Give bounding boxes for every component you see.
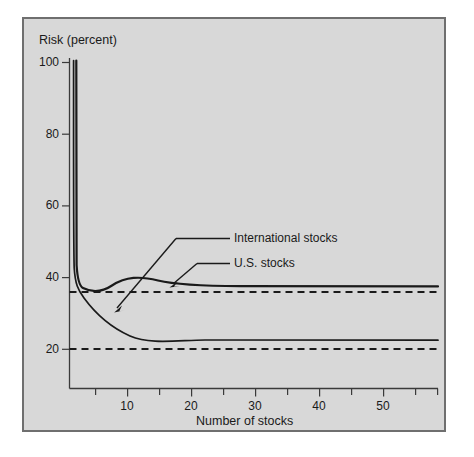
annotation-label-us-stocks: U.S. stocks <box>234 256 295 270</box>
figure-canvas: Risk (percent) 100 80 60 40 20 10 20 30 … <box>0 0 474 457</box>
x-tick-label-20: 20 <box>176 399 206 413</box>
plot-area <box>0 0 474 457</box>
y-tick-label-20: 20 <box>25 342 59 356</box>
x-tick-label-30: 30 <box>240 399 270 413</box>
annotation-label-international-stocks: International stocks <box>234 231 337 245</box>
y-axis-ticks <box>62 63 70 350</box>
x-tick-label-10: 10 <box>112 399 142 413</box>
x-axis-ticks <box>96 389 438 397</box>
x-tick-label-50: 50 <box>368 399 398 413</box>
x-tick-label-40: 40 <box>304 399 334 413</box>
y-axis-title: Risk (percent) <box>39 33 117 47</box>
arrowhead-international-stocks <box>114 306 124 313</box>
y-tick-label-100: 100 <box>25 55 59 69</box>
x-axis-title: Number of stocks <box>196 414 293 428</box>
y-tick-label-80: 80 <box>25 127 59 141</box>
annotation-leader-international-stocks <box>114 239 230 313</box>
y-tick-label-60: 60 <box>25 198 59 212</box>
series-line-international-stocks <box>74 61 438 342</box>
y-tick-label-40: 40 <box>25 270 59 284</box>
